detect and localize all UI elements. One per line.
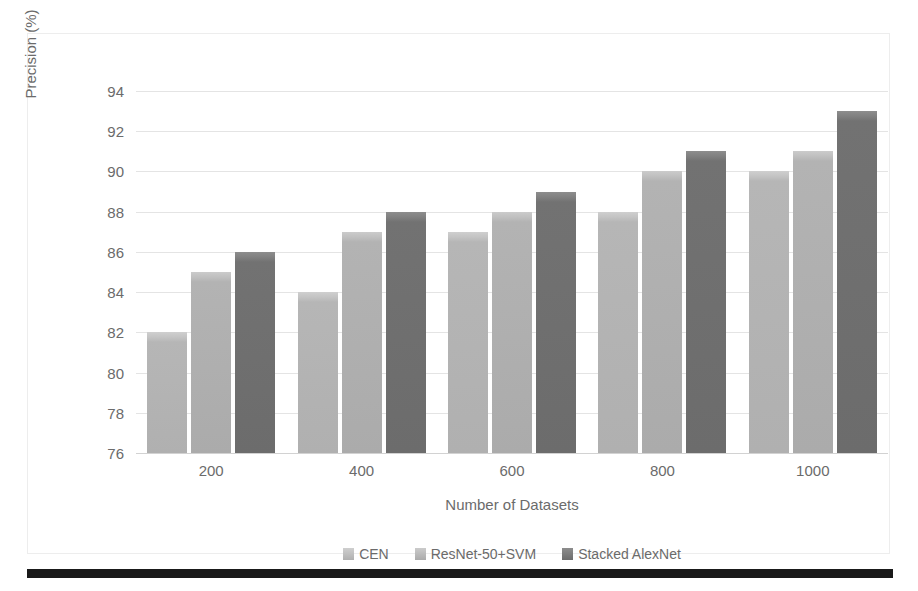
legend-item-cen[interactable]: CEN [343, 546, 389, 562]
bar-fill [191, 272, 231, 453]
legend-item-resnet-50-svm[interactable]: ResNet-50+SVM [415, 546, 536, 562]
bar-cen-600[interactable] [448, 232, 488, 453]
x-tick-label-400: 400 [302, 462, 422, 479]
plot-area [136, 91, 888, 453]
bar-resnet-50-svm-600[interactable] [492, 212, 532, 453]
x-tick-label-800: 800 [602, 462, 722, 479]
y-tick-label: 92 [84, 123, 124, 140]
x-tick-label-600: 600 [452, 462, 572, 479]
y-tick-label: 80 [84, 364, 124, 381]
bar-fill [749, 171, 789, 453]
legend-label: CEN [359, 546, 389, 562]
bar-cen-1000[interactable] [749, 171, 789, 453]
bar-group [437, 91, 587, 453]
bar-fill [147, 332, 187, 453]
bar-stacked-alexnet-1000[interactable] [837, 111, 877, 453]
x-axis-tick-labels: 2004006008001000 [136, 462, 888, 488]
bar-group [738, 91, 888, 453]
bar-fill [235, 252, 275, 453]
figure-container: Precision (%) 94929088868482807876 20040… [0, 0, 918, 591]
legend-label: Stacked AlexNet [578, 546, 681, 562]
bar-stacked-alexnet-200[interactable] [235, 252, 275, 453]
y-tick-label: 90 [84, 163, 124, 180]
bar-stacked-alexnet-600[interactable] [536, 192, 576, 453]
bars-layer [136, 91, 888, 453]
bar-fill [448, 232, 488, 453]
bar-fill [837, 111, 877, 453]
bar-fill [298, 292, 338, 453]
bar-group [136, 91, 286, 453]
bar-resnet-50-svm-400[interactable] [342, 232, 382, 453]
bar-stacked-alexnet-800[interactable] [686, 151, 726, 453]
bar-group [587, 91, 737, 453]
legend-label: ResNet-50+SVM [431, 546, 536, 562]
bar-cen-800[interactable] [598, 212, 638, 453]
bar-stacked-alexnet-400[interactable] [386, 212, 426, 453]
x-tick-label-200: 200 [151, 462, 271, 479]
bar-resnet-50-svm-200[interactable] [191, 272, 231, 453]
x-tick-label-1000: 1000 [753, 462, 873, 479]
y-tick-label: 88 [84, 203, 124, 220]
legend-item-stacked-alexnet[interactable]: Stacked AlexNet [562, 546, 681, 562]
bar-fill [536, 192, 576, 453]
y-tick-label: 82 [84, 324, 124, 341]
bar-fill [793, 151, 833, 453]
legend-swatch-icon [343, 548, 354, 560]
bar-fill [598, 212, 638, 453]
bar-fill [642, 171, 682, 453]
y-tick-label: 84 [84, 284, 124, 301]
x-axis-line [136, 453, 888, 454]
y-tick-label: 94 [84, 83, 124, 100]
bar-fill [492, 212, 532, 453]
bottom-horizontal-rule [27, 569, 893, 578]
bar-resnet-50-svm-800[interactable] [642, 171, 682, 453]
bar-fill [386, 212, 426, 453]
y-tick-label: 78 [84, 404, 124, 421]
y-tick-label: 76 [84, 445, 124, 462]
bar-cen-400[interactable] [298, 292, 338, 453]
bar-fill [686, 151, 726, 453]
bar-fill [342, 232, 382, 453]
x-axis-title: Number of Datasets [136, 496, 888, 513]
legend-swatch-icon [415, 548, 426, 560]
y-tick-label: 86 [84, 243, 124, 260]
chart-frame: Precision (%) 94929088868482807876 20040… [27, 33, 890, 554]
bar-cen-200[interactable] [147, 332, 187, 453]
bar-resnet-50-svm-1000[interactable] [793, 151, 833, 453]
chart-legend: CENResNet-50+SVMStacked AlexNet [136, 546, 888, 562]
y-axis-title: Precision (%) [22, 0, 39, 154]
legend-swatch-icon [562, 548, 573, 560]
bar-group [286, 91, 436, 453]
